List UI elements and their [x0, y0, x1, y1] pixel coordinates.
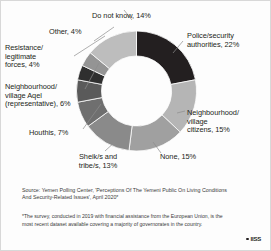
logo-dot-icon: [246, 238, 249, 241]
slice-label-village-citizens: Neighbourhood/ village citizens, 15%: [187, 109, 267, 135]
source-citation: Source: Yemen Polling Center, 'Perceptio…: [22, 187, 254, 201]
iiss-logo: IISS: [246, 236, 261, 242]
logo-wordmark: IISS: [250, 236, 261, 242]
slice-label-village-aqel: Neighbourhood/ village Aqel (representat…: [5, 83, 93, 109]
donut-slices: [77, 31, 197, 151]
slice-label-other: Other, 4%: [49, 28, 95, 37]
donut-chart: Police/security authorities, 22% Neighbo…: [1, 1, 271, 183]
footnote: *The survey, conducted in 2019 with fina…: [22, 213, 254, 227]
figure-footer: Source: Yemen Polling Center, 'Perceptio…: [22, 187, 254, 228]
slice-label-none: None, 15%: [160, 153, 220, 162]
chart-figure: Police/security authorities, 22% Neighbo…: [0, 0, 271, 251]
slice-label-sheiks-tribes: Sheik/s and tribe/s, 13%: [67, 153, 129, 170]
slice-label-houthis: Houthis, 7%: [29, 129, 81, 138]
slice-label-do-not-know: Do not know, 14%: [92, 12, 172, 21]
slice-label-police-security: Police/security authorities, 22%: [187, 32, 269, 49]
slice-label-resistance-forces: Resistance/ legitimate forces, 4%: [5, 44, 69, 70]
